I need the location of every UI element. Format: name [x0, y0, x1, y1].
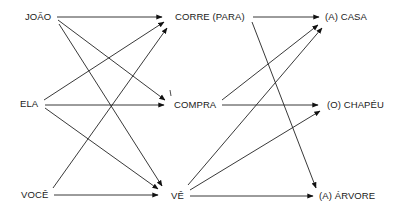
node-object-arvore: (A) ÁRVORE — [319, 190, 375, 201]
node-verb-ve: VÊ — [171, 190, 184, 201]
node-subject-voce: VOCÊ — [21, 189, 48, 200]
edge-ela-corre — [44, 22, 164, 100]
edge-voce-corre — [53, 28, 167, 188]
node-subject-ela: ELA — [20, 98, 38, 109]
node-object-casa: (A) CASA — [325, 11, 367, 22]
node-verb-compra: COMPRA — [174, 99, 216, 110]
node-verb-corre: CORRE (PARA) — [175, 11, 245, 22]
node-subject-joao: JOÃO — [25, 11, 51, 22]
edge-ve-chapeu — [190, 111, 320, 190]
sentence-combination-diagram: JOÃO ELA VOCÊ CORRE (PARA) COMPRA VÊ (A)… — [0, 0, 407, 216]
node-object-chapeu: (O) CHAPÉU — [327, 99, 384, 110]
annotation-tick — [170, 90, 171, 96]
